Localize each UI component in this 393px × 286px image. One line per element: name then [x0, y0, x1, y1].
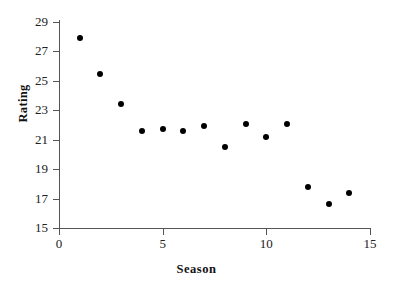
x-tick-label: 15: [355, 237, 385, 250]
data-point: [346, 190, 352, 196]
data-point: [243, 121, 249, 127]
data-point: [139, 128, 145, 134]
y-tick-label: 27: [22, 44, 48, 57]
x-axis-title: Season: [0, 262, 393, 277]
x-tick-label: 10: [251, 237, 281, 250]
x-axis-line: [59, 228, 371, 229]
data-point: [222, 144, 228, 150]
y-axis-title: Rating: [16, 85, 31, 123]
x-tick: [59, 229, 60, 235]
data-point: [305, 184, 311, 190]
y-tick-label: 17: [22, 192, 48, 205]
scatter-chart: 1517192123252729 051015 Rating Season: [0, 0, 393, 286]
x-tick: [163, 229, 164, 235]
x-tick-label: 5: [148, 237, 178, 250]
plot-area: [59, 22, 370, 228]
x-tick: [370, 229, 371, 235]
data-point: [77, 35, 83, 41]
data-point: [284, 121, 290, 127]
y-tick-label: 21: [22, 133, 48, 146]
y-tick-label: 15: [22, 221, 48, 234]
y-tick-label: 19: [22, 162, 48, 175]
x-tick: [266, 229, 267, 235]
y-tick-label: 29: [22, 15, 48, 28]
x-tick-label: 0: [44, 237, 74, 250]
